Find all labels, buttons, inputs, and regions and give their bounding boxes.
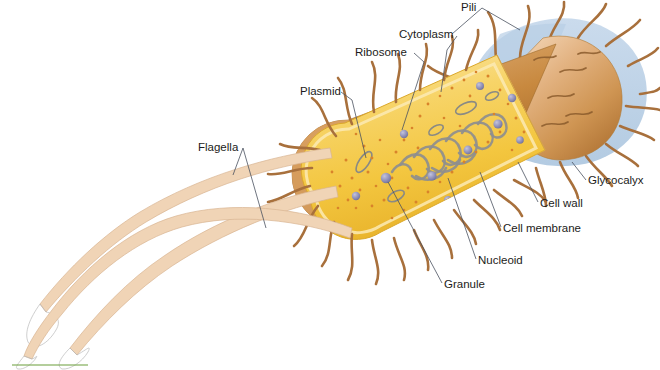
- label-cytoplasm: Cytoplasm: [399, 28, 453, 40]
- label-flagella: Flagella: [198, 141, 239, 153]
- label-cell-membrane: Cell membrane: [503, 222, 581, 234]
- bacterial-cell-diagram: Pili Cytoplasm Ribosome Plasmid Flagella…: [0, 0, 660, 370]
- label-granule: Granule: [444, 278, 485, 290]
- label-pili: Pili: [461, 1, 476, 13]
- label-cell-wall: Cell wall: [540, 197, 583, 209]
- label-ribosome: Ribosome: [355, 46, 407, 58]
- flagellum-lower: [24, 207, 352, 359]
- diagram-canvas: Pili Cytoplasm Ribosome Plasmid Flagella…: [0, 0, 660, 370]
- label-glycocalyx: Glycocalyx: [588, 174, 644, 186]
- label-nucleoid: Nucleoid: [478, 254, 523, 266]
- label-plasmid: Plasmid: [300, 85, 341, 97]
